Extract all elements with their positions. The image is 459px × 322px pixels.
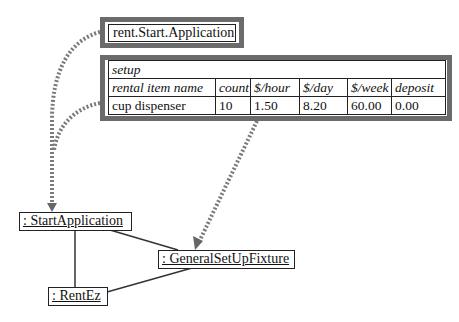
setup-table: setup rental item name count $/hour $/da… — [108, 60, 446, 115]
object-general-setup-fixture-label: : GeneralSetUpFixture — [162, 251, 289, 266]
association-setup-rentez — [107, 268, 192, 292]
cell-rental-item-name: cup dispenser — [109, 97, 216, 115]
header-per-hour: $/hour — [251, 79, 300, 97]
object-general-setup-fixture: : GeneralSetUpFixture — [158, 250, 295, 269]
dotted-arrow-setup-fixture — [200, 121, 257, 240]
table-row: cup dispenser 10 1.50 8.20 60.00 0.00 — [109, 97, 446, 115]
start-fixture-label: rent.Start.Application — [108, 24, 236, 42]
header-rental-item-name: rental item name — [109, 79, 216, 97]
header-count: count — [216, 79, 251, 97]
diagram-connectors — [0, 0, 459, 322]
dotted-arrow-setup-to-start — [54, 103, 100, 150]
object-rent-ez: : RentEz — [48, 287, 108, 306]
arrowhead-start-application-icon — [47, 203, 57, 212]
header-per-week: $/week — [348, 79, 392, 97]
table-header-row: rental item name count $/hour $/day $/we… — [109, 79, 446, 97]
table-title: setup — [109, 61, 446, 79]
table-title-row: setup — [109, 61, 446, 79]
cell-per-hour: 1.50 — [251, 97, 300, 115]
object-start-application-label: : StartApplication — [23, 213, 123, 228]
header-per-day: $/day — [300, 79, 348, 97]
cell-per-day: 8.20 — [300, 97, 348, 115]
association-start-setup — [110, 230, 178, 250]
header-deposit: deposit — [392, 79, 446, 97]
cell-per-week: 60.00 — [348, 97, 392, 115]
cell-count: 10 — [216, 97, 251, 115]
cell-deposit: 0.00 — [392, 97, 446, 115]
dotted-arrow-start-fixture — [52, 32, 100, 205]
object-start-application: : StartApplication — [19, 212, 132, 231]
object-rent-ez-label: : RentEz — [52, 288, 101, 303]
setup-table-frame: setup rental item name count $/hour $/da… — [100, 55, 452, 121]
start-fixture-frame: rent.Start.Application — [100, 17, 244, 48]
